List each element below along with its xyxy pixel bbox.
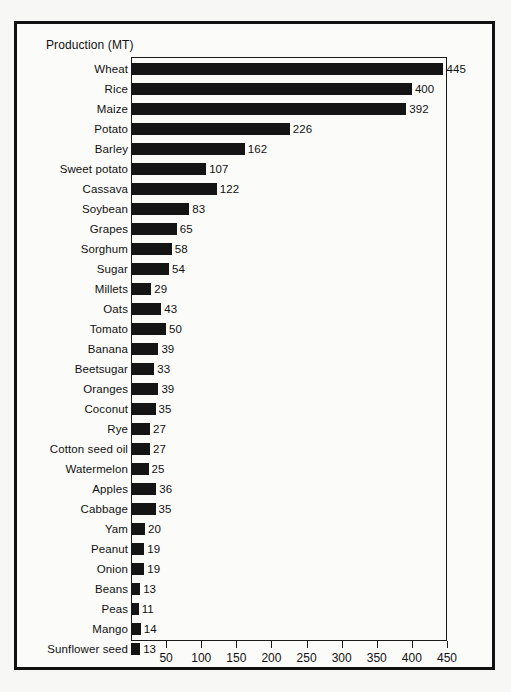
bar [131,463,149,475]
category-label: Rye [107,423,128,435]
category-label: Rice [105,83,128,95]
bar-value-label: 36 [159,483,172,495]
bar-row: Tomato50 [0,320,511,340]
category-label: Tomato [90,323,128,335]
bar-value-label: 19 [147,563,160,575]
category-label: Soybean [82,203,128,215]
bar [131,563,144,575]
bar-value-label: 65 [180,223,193,235]
bar [131,523,145,535]
bar-value-label: 107 [209,163,229,175]
category-label: Wheat [94,63,128,75]
category-label: Cotton seed oil [50,443,128,455]
bar-row: Cabbage35 [0,500,511,520]
bar-row: Rice400 [0,80,511,100]
bar-row: Maize392 [0,100,511,120]
bar-row: Yam20 [0,520,511,540]
bar [131,263,169,275]
category-label: Onion [97,563,128,575]
bar-row: Soybean83 [0,200,511,220]
bar-value-label: 122 [220,183,240,195]
bar-value-label: 392 [409,103,429,115]
bar-value-label: 19 [147,543,160,555]
bar-row: Oats43 [0,300,511,320]
category-label: Yam [105,523,128,535]
bar-value-label: 50 [169,323,182,335]
bar-rows: Wheat445Rice400Maize392Potato226Barley16… [0,60,511,660]
bar [131,443,150,455]
bar-row: Banana39 [0,340,511,360]
bar [131,303,161,315]
bar-row: Sweet potato107 [0,160,511,180]
category-label: Oats [103,303,128,315]
bar-value-label: 29 [154,283,167,295]
bar-value-label: 27 [153,423,166,435]
bar [131,183,217,195]
category-label: Sugar [97,263,128,275]
bar [131,63,443,75]
category-label: Millets [95,283,128,295]
bar-row: Sugar54 [0,260,511,280]
category-label: Peas [101,603,128,615]
category-label: Peanut [91,543,128,555]
bar-value-label: 25 [152,463,165,475]
category-label: Banana [88,343,128,355]
bar-row: Barley162 [0,140,511,160]
bar [131,363,154,375]
bar-value-label: 27 [153,443,166,455]
bar-value-label: 400 [415,83,435,95]
bar [131,343,158,355]
bar-value-label: 43 [164,303,177,315]
bar [131,383,158,395]
category-label: Sweet potato [60,163,128,175]
category-label: Sunflower seed [47,643,128,655]
bar [131,163,206,175]
bar-row: Rye27 [0,420,511,440]
bar-row: Sorghum58 [0,240,511,260]
category-label: Beetsugar [75,363,128,375]
bar-row: Beetsugar33 [0,360,511,380]
category-label: Sorghum [81,243,128,255]
bar-row: Apples36 [0,480,511,500]
category-label: Maize [97,103,128,115]
bar-row: Mango14 [0,620,511,640]
bar [131,423,150,435]
bar-value-label: 14 [144,623,157,635]
category-label: Mango [92,623,128,635]
category-label: Watermelon [65,463,128,475]
bar [131,323,166,335]
category-label: Potato [94,123,128,135]
bar-value-label: 162 [248,143,268,155]
bar-value-label: 35 [159,403,172,415]
bar [131,503,156,515]
bar-value-label: 83 [192,203,205,215]
bar-row: Peanut19 [0,540,511,560]
category-label: Grapes [90,223,128,235]
category-label: Barley [95,143,128,155]
bar-value-label: 54 [172,263,185,275]
bar-row: Grapes65 [0,220,511,240]
bar-row: Cassava122 [0,180,511,200]
bar-value-label: 226 [293,123,313,135]
bar-value-label: 39 [161,343,174,355]
bar [131,223,177,235]
bar [131,103,406,115]
bar-row: Watermelon25 [0,460,511,480]
bar [131,243,172,255]
bar [131,643,140,655]
bar [131,143,245,155]
bar [131,623,141,635]
bar [131,123,290,135]
bar-row: Onion19 [0,560,511,580]
bar [131,83,412,95]
category-label: Apples [92,483,128,495]
bar [131,283,151,295]
bar-value-label: 20 [148,523,161,535]
bar-value-label: 58 [175,243,188,255]
bar [131,403,156,415]
category-label: Cassava [83,183,128,195]
bar-value-label: 13 [143,643,156,655]
bar [131,543,144,555]
bar [131,203,189,215]
bar-row: Sunflower seed13 [0,640,511,660]
